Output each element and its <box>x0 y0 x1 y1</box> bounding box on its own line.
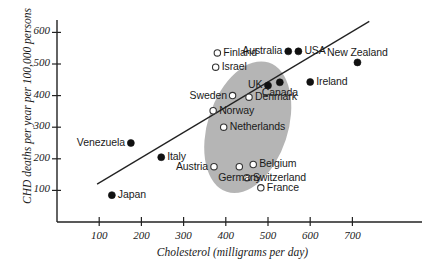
data-point-marker <box>127 140 134 147</box>
scatter-chart: JapanVenezuelaItalyAustriaFinlandIsraelS… <box>0 0 425 278</box>
data-point-label: Venezuela <box>77 136 125 148</box>
x-tick-label: 300 <box>166 229 202 241</box>
data-point-marker <box>108 192 115 199</box>
data-point-marker <box>210 108 216 114</box>
data-point-label: Canada <box>262 86 298 98</box>
data-point-label: Norway <box>219 104 254 116</box>
data-point-label: Israel <box>222 60 247 72</box>
x-tick-label: 100 <box>81 229 117 241</box>
data-point-label: France <box>267 181 299 193</box>
data-point-marker <box>246 94 252 100</box>
data-point-marker <box>250 161 256 167</box>
data-point-label: New Zealand <box>327 46 388 58</box>
data-point-marker <box>214 50 220 56</box>
data-point-label: USA <box>304 44 325 56</box>
data-point-marker <box>220 124 226 130</box>
data-point-marker <box>307 79 314 86</box>
data-point-marker <box>258 185 264 191</box>
x-tick-label: 200 <box>123 229 159 241</box>
data-point-marker <box>211 164 217 170</box>
data-point-label: Belgium <box>259 157 296 169</box>
data-point-label: Sweden <box>190 89 227 101</box>
data-point-label: Austria <box>176 160 208 172</box>
data-point-label: Netherlands <box>230 120 286 132</box>
data-point-marker <box>229 92 235 98</box>
x-tick-label: 700 <box>334 229 370 241</box>
x-tick-label: 600 <box>292 229 328 241</box>
data-point-marker <box>158 154 165 161</box>
data-point-marker <box>212 64 218 70</box>
data-point-marker <box>285 48 292 55</box>
y-axis-title: CHD deaths per year per 100,000 persons <box>21 0 33 221</box>
x-tick-label: 400 <box>208 229 244 241</box>
data-point-marker <box>295 48 302 55</box>
x-axis-title: Cholesterol (milligrams per day) <box>0 246 425 258</box>
data-point-marker <box>236 164 242 170</box>
x-tick-label: 500 <box>250 229 286 241</box>
data-point-marker <box>354 59 361 66</box>
data-point-label: Australia <box>242 44 282 56</box>
data-point-label: Japan <box>118 188 146 200</box>
data-point-label: UK <box>248 78 262 90</box>
data-point-marker <box>276 79 283 86</box>
data-point-label: Ireland <box>316 75 347 87</box>
